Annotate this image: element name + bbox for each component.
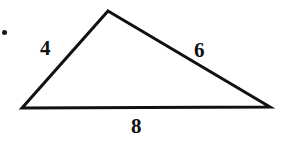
side-length-label-left: 4 (40, 38, 51, 59)
side-length-label-base: 8 (131, 116, 142, 137)
figure-canvas: 4 6 8 (0, 0, 281, 149)
side-length-label-right: 6 (194, 40, 205, 61)
triangle-outline (22, 11, 270, 108)
